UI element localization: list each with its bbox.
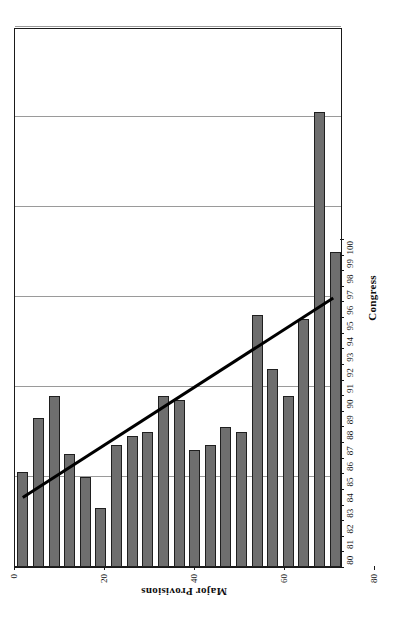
chart-page: 020406080100120 Major Provisions 8081828… bbox=[0, 0, 398, 624]
value-axis-title: Major Provisions bbox=[94, 586, 274, 598]
plot-area bbox=[14, 28, 342, 568]
category-tick-end bbox=[340, 239, 344, 240]
trendline bbox=[23, 298, 333, 498]
trendline-overlay bbox=[15, 29, 341, 567]
value-label-80: 80 bbox=[369, 574, 379, 604]
category-label-100: 100 bbox=[344, 235, 356, 261]
category-axis-title: Congress bbox=[366, 28, 378, 568]
bar-chart-figure: 020406080100120 Major Provisions 8081828… bbox=[0, 0, 398, 624]
value-label-0: 0 bbox=[9, 574, 19, 604]
value-label-60: 60 bbox=[279, 574, 289, 604]
